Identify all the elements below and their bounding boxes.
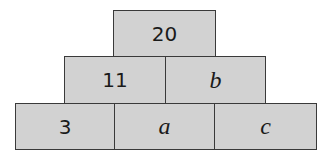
middle-block-right: b bbox=[165, 56, 266, 104]
middle-left-value: 11 bbox=[102, 68, 127, 92]
middle-block-left: 11 bbox=[64, 56, 166, 104]
top-block: 20 bbox=[113, 10, 216, 57]
bottom-block-middle: a bbox=[114, 103, 215, 150]
bottom-block-right: c bbox=[214, 103, 317, 150]
bottom-middle-variable: a bbox=[159, 113, 171, 140]
bottom-block-left: 3 bbox=[15, 103, 115, 150]
middle-right-variable: b bbox=[210, 67, 222, 94]
bottom-left-value: 3 bbox=[59, 115, 72, 139]
bottom-right-variable: c bbox=[260, 113, 271, 140]
top-block-value: 20 bbox=[152, 22, 177, 46]
